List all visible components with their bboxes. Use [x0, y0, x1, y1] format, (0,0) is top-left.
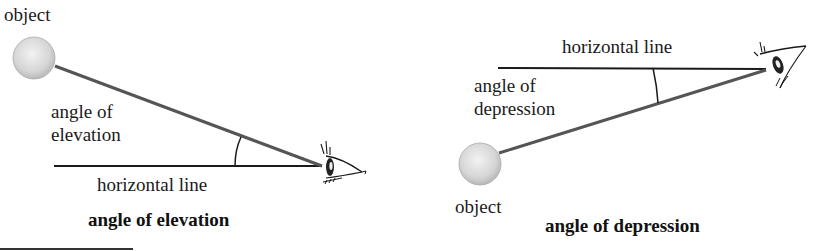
horizontal-line-label: horizontal line	[97, 174, 207, 196]
angle-label-line2: depression	[474, 98, 555, 120]
object-ball-icon	[459, 143, 501, 185]
angle-label-line2: elevation	[51, 124, 121, 146]
horizontal-line	[498, 68, 766, 69]
eye-icon	[321, 141, 366, 184]
eye-icon	[754, 42, 806, 88]
angle-arc	[653, 68, 658, 103]
angle-arc	[235, 137, 241, 166]
diagram-stage: object angle of elevation horizontal lin…	[0, 0, 813, 251]
horizontal-line-label: horizontal line	[562, 36, 672, 58]
caption: angle of depression	[545, 215, 700, 237]
angle-label-line1: angle of	[474, 75, 536, 97]
angle-label-line1: angle of	[51, 101, 113, 123]
object-label: object	[455, 196, 501, 218]
object-label: object	[4, 4, 50, 26]
object-ball-icon	[13, 37, 55, 79]
caption: angle of elevation	[88, 209, 229, 231]
